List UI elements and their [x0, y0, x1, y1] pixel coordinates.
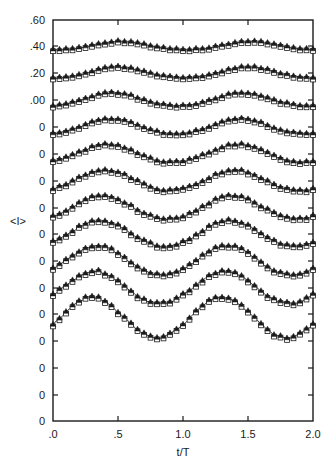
y-tick-label: 0	[39, 255, 45, 267]
y-tick-label: 0	[39, 389, 45, 401]
y-tick-label: 0	[39, 362, 45, 374]
data-markers	[50, 38, 315, 343]
y-tick-label: 0	[39, 308, 45, 320]
x-tick-label: 2.0	[305, 428, 320, 440]
y-tick-label: 0	[39, 282, 45, 294]
y-tick-label: 0	[39, 121, 45, 133]
chart-canvas: .0.51.01.52.0t/T.60.40.20.00000000000000…	[0, 0, 331, 468]
y-tick-label: .20	[30, 67, 45, 79]
y-tick-label: 0	[39, 148, 45, 160]
figure-root: .0.51.01.52.0t/T.60.40.20.00000000000000…	[0, 0, 331, 468]
x-tick-label: .0	[48, 428, 57, 440]
x-tick-label: 1.0	[175, 428, 190, 440]
y-axis-label: <I>	[10, 215, 26, 227]
y-tick-label: 0	[39, 335, 45, 347]
x-tick-label: 1.5	[240, 428, 255, 440]
x-tick-label: .5	[113, 428, 122, 440]
axis-text: .0.51.01.52.0t/T.60.40.20.00000000000000…	[10, 14, 321, 458]
y-tick-label: 0	[39, 228, 45, 240]
y-tick-label: .40	[30, 40, 45, 52]
y-tick-label: .00	[30, 94, 45, 106]
y-tick-label: 0	[39, 175, 45, 187]
y-tick-label: .60	[30, 14, 45, 26]
y-tick-label: 0	[39, 202, 45, 214]
y-tick-label: 0	[39, 415, 45, 427]
x-axis-label: t/T	[177, 446, 190, 458]
